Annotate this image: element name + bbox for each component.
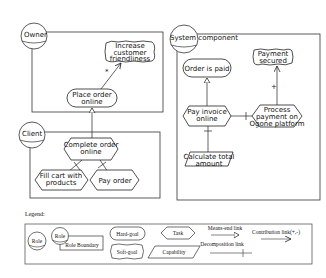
svg-text:Means-end link: Means-end link xyxy=(208,225,243,231)
svg-text:online: online xyxy=(196,115,217,123)
contribution-label-star: * xyxy=(105,68,109,76)
task-process-payment[interactable]: Process payment on Ogone platform xyxy=(250,105,305,128)
hardgoal-order-paid[interactable]: Order is paid xyxy=(183,59,231,77)
svg-text:Decomposition link: Decomposition link xyxy=(200,241,244,247)
goal-model-diagram: Owner Increase customer friendliness * P… xyxy=(0,0,326,278)
svg-text:online: online xyxy=(81,98,102,106)
contribution-link-place-increase xyxy=(101,63,121,89)
legend-box: Role Role Role Boundary Hard-goal Soft-g… xyxy=(25,224,312,264)
svg-text:Role: Role xyxy=(32,238,43,244)
svg-text:Task: Task xyxy=(173,230,184,236)
softgoal-payment-secured[interactable]: Payment secured xyxy=(253,49,293,65)
svg-text:friendliness: friendliness xyxy=(110,55,151,63)
svg-text:Soft-goal: Soft-goal xyxy=(117,249,138,255)
capability-calculate-total[interactable]: Calculate total amount xyxy=(184,152,235,168)
task-pay-order[interactable]: Pay order xyxy=(90,170,139,190)
legend-soft-goal: Soft-goal xyxy=(111,244,144,259)
owner-label: Owner xyxy=(24,31,47,39)
task-fill-cart[interactable]: Fill cart with products xyxy=(35,170,88,190)
legend-role: Role xyxy=(28,232,46,250)
svg-text:Order is paid: Order is paid xyxy=(184,65,229,73)
contribution-label-plus: + xyxy=(271,83,277,91)
svg-text:Role Boundary: Role Boundary xyxy=(65,242,99,248)
task-complete-order[interactable]: Complete order online xyxy=(64,138,119,160)
decomposition-link-invoice-calculate xyxy=(204,126,212,152)
svg-text:Role: Role xyxy=(55,233,66,239)
svg-text:products: products xyxy=(46,179,77,187)
softgoal-increase-friendliness[interactable]: Increase customer friendliness xyxy=(105,41,155,63)
legend-hard-goal: Hard-goal xyxy=(110,227,145,240)
decomposition-link-invoice-process xyxy=(231,112,252,120)
svg-text:Contribution link(+,-): Contribution link(+,-) xyxy=(252,229,300,236)
legend-title: Legend: xyxy=(25,211,45,217)
svg-text:Ogone platform: Ogone platform xyxy=(250,120,305,128)
legend-task: Task xyxy=(161,227,195,239)
svg-text:amount: amount xyxy=(195,160,222,168)
task-pay-invoice[interactable]: Pay invoice online xyxy=(183,106,231,126)
svg-text:Hard-goal: Hard-goal xyxy=(116,231,139,237)
client-label: Client xyxy=(22,130,43,138)
svg-text:online: online xyxy=(80,148,101,156)
legend-capability: Capability xyxy=(148,246,200,258)
svg-text:secured: secured xyxy=(259,57,287,65)
system-label: System component xyxy=(170,34,238,42)
svg-text:Pay order: Pay order xyxy=(98,177,131,185)
svg-text:Capability: Capability xyxy=(163,249,186,255)
hardgoal-place-order[interactable]: Place order online xyxy=(67,89,117,107)
